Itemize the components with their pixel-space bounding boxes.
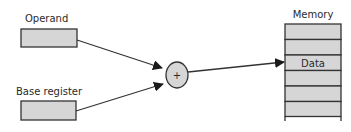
memory-data-label: Data (301, 58, 325, 69)
base-register-label: Base register (16, 86, 83, 97)
operand-box (21, 29, 77, 47)
base-register-box (21, 101, 76, 120)
memory-label: Memory (293, 9, 334, 20)
operand-label: Operand (25, 13, 68, 24)
operand-arrow (77, 40, 162, 68)
memory-cell (285, 71, 341, 87)
memory-cell (285, 40, 341, 56)
plus-icon: + (173, 70, 181, 81)
base-register-addressing-diagram: Operand Base register + Memory Data (0, 0, 351, 132)
base-register-arrow (76, 84, 163, 111)
memory-cell (285, 102, 341, 117)
address-arrow (188, 62, 284, 72)
memory-stack (285, 24, 341, 121)
memory-cell (285, 86, 341, 102)
memory-cell (285, 24, 341, 40)
